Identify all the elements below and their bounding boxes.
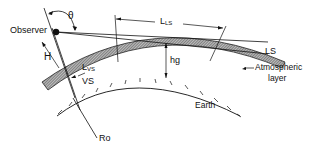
atmospheric-layer-band bbox=[42, 38, 285, 90]
ls-label: LS bbox=[265, 47, 276, 56]
layer-label: layer bbox=[268, 74, 286, 83]
atmospheric-label: Atmospheric bbox=[255, 63, 302, 72]
earth-label: Earth bbox=[195, 101, 215, 110]
observer-label: Observer bbox=[10, 26, 47, 35]
l-ls-label: LLS bbox=[160, 17, 172, 26]
l-vs-label: LVS bbox=[82, 63, 95, 72]
l-ls-sub: LS bbox=[165, 20, 172, 26]
vs-label: VS bbox=[82, 77, 94, 86]
l-ls-dim-left bbox=[116, 19, 155, 22]
theta-label: θ bbox=[68, 11, 74, 21]
h-label: H bbox=[44, 52, 51, 62]
l-ls-dim-right bbox=[183, 24, 223, 28]
line-of-sight-lower bbox=[56, 32, 268, 54]
l-vs-sub: VS bbox=[87, 66, 95, 72]
atmospheric-path-diagram bbox=[0, 0, 314, 151]
ro-label: Ro bbox=[99, 134, 111, 143]
hg-label: hg bbox=[170, 56, 180, 65]
earth-radius-line bbox=[73, 98, 97, 138]
